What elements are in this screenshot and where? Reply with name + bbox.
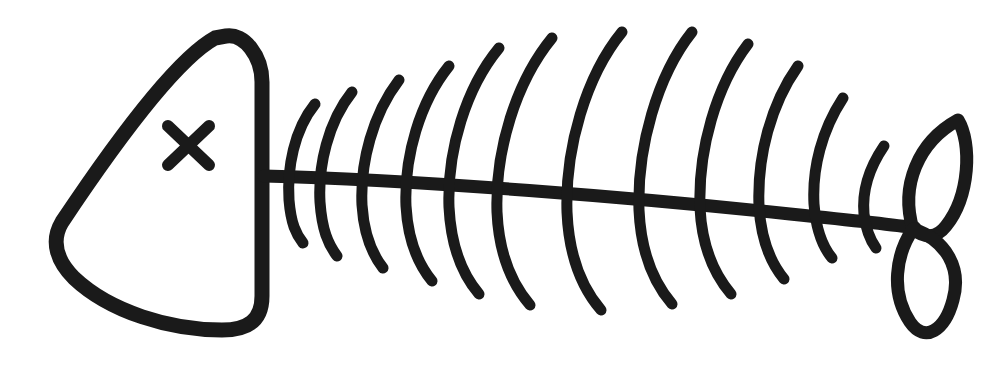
drawing-canvas: Fish bone skeleton line drawing xyxy=(0,0,999,367)
fish-bone-illustration: Fish bone skeleton line drawing xyxy=(0,0,999,367)
